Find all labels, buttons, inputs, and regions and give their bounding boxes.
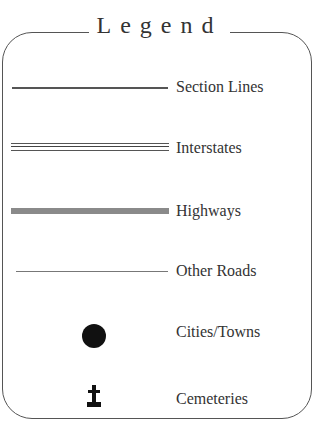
section-line-icon [12, 87, 168, 89]
legend-label: Other Roads [176, 262, 256, 280]
other-road-icon [16, 271, 168, 272]
legend-item-highways: Highways [0, 196, 319, 226]
interstate-icon [11, 143, 169, 151]
legend-item-section-lines: Section Lines [0, 72, 319, 102]
legend-label: Highways [176, 202, 241, 220]
city-dot-icon [82, 324, 106, 348]
legend-item-other-roads: Other Roads [0, 256, 319, 286]
legend-item-cities-towns: Cities/Towns [0, 317, 319, 347]
legend-label: Cemeteries [176, 390, 248, 408]
cemetery-cross-icon [87, 385, 101, 407]
highway-icon [11, 208, 169, 214]
legend-label: Section Lines [176, 78, 264, 96]
legend-label: Interstates [176, 139, 242, 157]
legend-title: Legend [89, 12, 231, 38]
legend-item-interstates: Interstates [0, 133, 319, 163]
legend-item-cemeteries: Cemeteries [0, 384, 319, 414]
legend-label: Cities/Towns [176, 323, 260, 341]
legend-title-wrap: Legend [0, 12, 319, 39]
